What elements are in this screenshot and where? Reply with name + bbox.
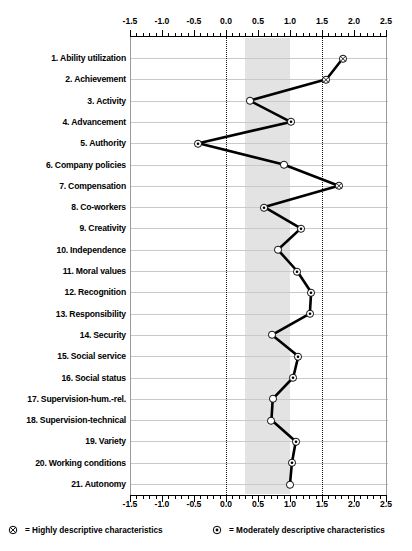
category-index: 8.	[71, 202, 78, 212]
data-point-12[interactable]	[306, 283, 316, 301]
data-point-13[interactable]	[305, 305, 315, 323]
category-text: Achievement	[74, 74, 126, 84]
data-point-5[interactable]	[194, 134, 204, 152]
category-index: 2.	[65, 74, 72, 84]
category-index: 20.	[35, 458, 47, 468]
category-label-1: 1.Ability utilization	[51, 53, 126, 63]
category-text: Company policies	[55, 160, 126, 170]
category-index: 14.	[80, 330, 92, 340]
category-text: Responsibility	[69, 309, 126, 319]
plot-border-left	[130, 36, 131, 495]
category-text: Creativity	[88, 223, 126, 233]
category-label-17: 17.Supervision-hum.-rel.	[27, 394, 126, 404]
category-label-column: 1.Ability utilization2.Achievement3.Acti…	[0, 0, 132, 551]
category-text: Advancement	[71, 117, 126, 127]
data-point-15[interactable]	[294, 347, 304, 365]
category-index: 15.	[57, 351, 69, 361]
category-index: 1.	[51, 53, 58, 63]
category-label-6: 6.Company policies	[46, 160, 126, 170]
category-index: 4.	[62, 117, 69, 127]
category-label-2: 2.Achievement	[65, 74, 126, 84]
data-point-8[interactable]	[260, 198, 270, 216]
data-point-9[interactable]	[296, 219, 306, 237]
category-text: Authority	[89, 138, 126, 148]
category-label-10: 10.Independence	[57, 245, 126, 255]
category-label-12: 12.Recognition	[65, 287, 127, 297]
category-text: Variety	[99, 436, 126, 446]
data-point-3[interactable]	[245, 92, 255, 110]
category-index: 13.	[56, 309, 68, 319]
category-text: Supervision-technical	[40, 415, 126, 425]
data-point-7[interactable]	[334, 177, 344, 195]
highly-descriptive-icon	[8, 525, 18, 535]
data-point-20[interactable]	[287, 454, 297, 472]
category-label-20: 20.Working conditions	[35, 458, 126, 468]
chart-legend: = Highly descriptive characteristics = M…	[0, 523, 412, 545]
plot-area: -1.5-1.0-0.50.00.51.01.52.02.5-1.5-1.0-0…	[132, 0, 394, 551]
data-point-4[interactable]	[286, 113, 296, 131]
category-label-16: 16.Social status	[61, 373, 126, 383]
category-text: Security	[93, 330, 126, 340]
data-point-6[interactable]	[279, 156, 289, 174]
category-text: Ability utilization	[60, 53, 126, 63]
category-text: Social status	[75, 373, 126, 383]
category-text: Independence	[70, 245, 126, 255]
legend-item-highly: = Highly descriptive characteristics	[8, 525, 163, 535]
category-label-21: 21.Autonomy	[71, 479, 126, 489]
category-text: Working conditions	[49, 458, 126, 468]
series-line	[132, 0, 394, 551]
category-text: Moral values	[76, 266, 126, 276]
category-label-3: 3.Activity	[87, 96, 126, 106]
data-point-17[interactable]	[268, 390, 278, 408]
data-point-2[interactable]	[322, 70, 332, 88]
category-text: Compensation	[68, 181, 126, 191]
category-text: Autonomy	[85, 479, 126, 489]
data-point-11[interactable]	[292, 262, 302, 280]
category-text: Co-workers	[80, 202, 126, 212]
category-label-4: 4.Advancement	[62, 117, 126, 127]
category-label-14: 14.Security	[80, 330, 126, 340]
category-index: 16.	[61, 373, 73, 383]
data-point-16[interactable]	[288, 369, 298, 387]
category-label-19: 19.Variety	[85, 436, 126, 446]
legend-label: = Moderately descriptive characteristics	[229, 526, 385, 535]
data-point-18[interactable]	[267, 411, 277, 429]
category-index: 10.	[57, 245, 69, 255]
category-index: 21.	[71, 479, 83, 489]
category-label-13: 13.Responsibility	[56, 309, 126, 319]
data-point-10[interactable]	[273, 241, 283, 259]
category-label-11: 11.Moral values	[63, 266, 126, 276]
category-index: 7.	[59, 181, 66, 191]
category-label-8: 8.Co-workers	[71, 202, 126, 212]
category-index: 9.	[79, 223, 86, 233]
data-point-21[interactable]	[285, 475, 295, 493]
category-index: 18.	[26, 415, 38, 425]
category-text: Supervision-hum.-rel.	[41, 394, 126, 404]
category-index: 19.	[85, 436, 97, 446]
data-point-19[interactable]	[291, 432, 301, 450]
category-index: 12.	[65, 287, 77, 297]
category-label-7: 7.Compensation	[59, 181, 126, 191]
category-index: 6.	[46, 160, 53, 170]
category-index: 3.	[87, 96, 94, 106]
plot-inner: -1.5-1.0-0.50.00.51.01.52.02.5-1.5-1.0-0…	[132, 0, 394, 551]
data-point-1[interactable]	[338, 49, 348, 67]
category-index: 17.	[27, 394, 39, 404]
category-text: Activity	[96, 96, 126, 106]
moderately-descriptive-icon	[212, 525, 222, 535]
chart-root: 1.Ability utilization2.Achievement3.Acti…	[0, 0, 412, 551]
category-index: 11.	[63, 266, 74, 276]
category-text: Recognition	[78, 287, 126, 297]
category-text: Social service	[71, 351, 126, 361]
category-index: 5.	[80, 138, 87, 148]
category-label-18: 18.Supervision-technical	[26, 415, 126, 425]
category-label-5: 5.Authority	[80, 138, 126, 148]
legend-item-moderately: = Moderately descriptive characteristics	[212, 525, 385, 535]
category-label-9: 9.Creativity	[79, 223, 126, 233]
legend-label: = Highly descriptive characteristics	[25, 526, 163, 535]
data-point-14[interactable]	[267, 326, 277, 344]
category-label-15: 15.Social service	[57, 351, 126, 361]
